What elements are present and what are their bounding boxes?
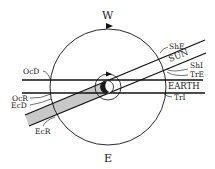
orbit-diagram: W E SUN EARTH ShE ShI TrE TrI OcD OcR Ec… <box>0 0 215 169</box>
rotation-arrow-icon <box>106 72 112 77</box>
label-ShI: ShI <box>190 61 203 70</box>
label-TrI: TrI <box>174 93 186 102</box>
label-EcR: EcR <box>35 127 51 136</box>
label-TrE: TrE <box>190 70 204 79</box>
label-east: E <box>104 152 112 165</box>
leader-ShI <box>166 69 188 71</box>
label-west: W <box>102 9 114 22</box>
label-OcD: OcD <box>23 67 39 76</box>
label-earth: EARTH <box>168 81 200 91</box>
leader-OcD <box>43 71 50 79</box>
leader-ShE <box>160 47 168 53</box>
label-EcD: EcD <box>11 101 27 110</box>
leader-TrE <box>167 72 188 76</box>
leader-EcD <box>30 99 51 105</box>
leader-OcR <box>30 94 51 98</box>
orbit-direction-arrow-icon <box>106 23 113 29</box>
label-ShE: ShE <box>169 42 184 51</box>
